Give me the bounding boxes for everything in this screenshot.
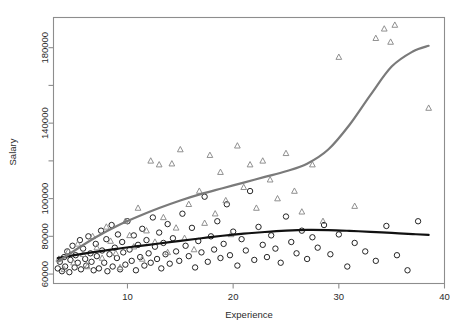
y-axis-title: Salary xyxy=(7,138,18,165)
y-tick-label: 100000 xyxy=(39,183,50,215)
x-tick-label: 10 xyxy=(122,291,133,302)
chart-canvas: 6000080000100000140000180000 10203040 Sa… xyxy=(0,0,460,328)
x-tick-label: 30 xyxy=(334,291,345,302)
x-tick-label: 40 xyxy=(439,291,450,302)
x-axis-title: Experience xyxy=(225,309,273,320)
y-tick-label: 80000 xyxy=(39,223,50,249)
y-tick-label: 60000 xyxy=(39,261,50,287)
figure-background xyxy=(0,0,460,328)
scatter-plot-figure: 6000080000100000140000180000 10203040 Sa… xyxy=(0,0,460,328)
x-tick-label: 20 xyxy=(228,291,239,302)
y-tick-label: 140000 xyxy=(39,107,50,139)
y-tick-label: 180000 xyxy=(39,32,50,64)
